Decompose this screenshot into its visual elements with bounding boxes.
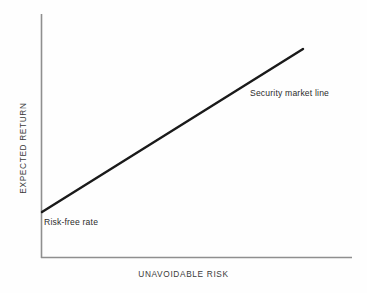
annotation-risk-free-rate: Risk-free rate xyxy=(44,217,98,227)
y-axis-title: EXPECTED RETURN xyxy=(18,68,28,228)
security-market-line xyxy=(42,49,303,212)
annotation-security-market-line: Security market line xyxy=(250,88,329,98)
plot-area xyxy=(0,0,367,293)
chart-figure: EXPECTED RETURN UNAVOIDABLE RISK Risk-fr… xyxy=(0,0,367,293)
x-axis-title: UNAVOIDABLE RISK xyxy=(0,269,367,279)
